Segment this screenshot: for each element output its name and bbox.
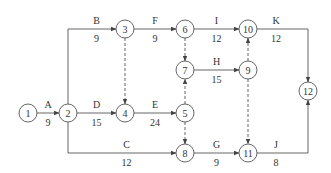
event-node-label: 6: [183, 24, 188, 35]
event-node-label: 12: [303, 86, 313, 97]
event-node-label: 2: [66, 108, 71, 119]
activity-name: D: [93, 99, 100, 110]
diagram-svg: 123456789101112 A9B9C12D15E24F9G9H15I12J…: [0, 0, 331, 173]
event-node-label: 3: [123, 24, 128, 35]
activity-name: B: [93, 15, 100, 26]
activity-name: E: [152, 99, 158, 110]
activity-duration: 12: [271, 33, 281, 44]
activity-duration: 12: [122, 157, 132, 168]
activity-duration: 9: [46, 117, 51, 128]
event-node-label: 1: [26, 108, 31, 119]
activity-duration: 9: [153, 33, 158, 44]
activity-arrow-K: [257, 29, 308, 82]
activity-name: C: [123, 139, 130, 150]
event-node-label: 9: [246, 65, 251, 76]
activity-arrow-J: [257, 100, 308, 153]
activity-duration: 12: [212, 33, 222, 44]
event-node-label: 7: [183, 65, 188, 76]
activity-name: J: [274, 139, 278, 150]
activity-name: F: [152, 15, 158, 26]
event-node-label: 8: [183, 148, 188, 159]
activity-duration: 9: [214, 157, 219, 168]
event-node-label: 11: [243, 148, 253, 159]
activity-arrow-B: [68, 29, 116, 104]
activity-duration: 9: [94, 33, 99, 44]
activity-name: G: [213, 139, 220, 150]
network-diagram: 123456789101112 A9B9C12D15E24F9G9H15I12J…: [0, 0, 331, 173]
activity-duration: 15: [92, 117, 102, 128]
activity-name: A: [44, 99, 52, 110]
activity-arrows: [37, 29, 308, 153]
activity-name: I: [215, 15, 218, 26]
event-node-label: 4: [123, 108, 128, 119]
activity-duration: 24: [150, 117, 160, 128]
activity-name: H: [213, 56, 220, 67]
event-node-label: 10: [243, 24, 253, 35]
activity-duration: 15: [212, 74, 222, 85]
activity-name: K: [272, 15, 280, 26]
activity-duration: 8: [274, 157, 279, 168]
event-node-label: 5: [183, 108, 188, 119]
